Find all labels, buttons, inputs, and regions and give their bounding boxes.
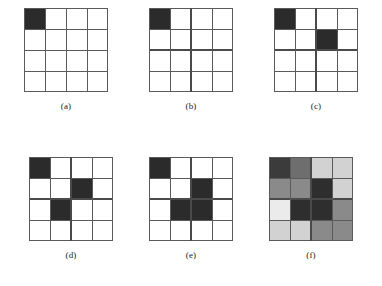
grid-cell-r2-c0[interactable]	[149, 50, 170, 71]
grid-cell-r0-c2[interactable]	[316, 8, 337, 29]
grid-cell-r0-c2[interactable]	[311, 157, 332, 178]
grid-cell-r0-c0[interactable]	[274, 8, 295, 29]
grid-cell-r1-c1[interactable]	[170, 29, 191, 50]
grid-cell-r0-c2[interactable]	[191, 157, 212, 178]
grid-cell-r1-c3[interactable]	[87, 29, 108, 50]
grid-cell-r2-c1[interactable]	[50, 199, 71, 220]
grid-cell-r1-c0[interactable]	[149, 29, 170, 50]
grid-cell-r0-c2[interactable]	[71, 157, 92, 178]
grid-cell-r3-c1[interactable]	[170, 71, 191, 92]
grid-cell-r2-c3[interactable]	[337, 50, 358, 71]
grid-cell-r0-c0[interactable]	[149, 157, 170, 178]
grid-cell-r2-c3[interactable]	[212, 199, 233, 220]
grid-cell-r3-c2[interactable]	[66, 71, 87, 92]
grid-cell-r0-c1[interactable]	[170, 157, 191, 178]
grid-cell-r0-c1[interactable]	[170, 8, 191, 29]
grid-cell-r3-c0[interactable]	[274, 71, 295, 92]
grid-cell-r2-c0[interactable]	[269, 199, 290, 220]
grid-cell-r1-c2[interactable]	[316, 29, 337, 50]
grid-cell-r2-c3[interactable]	[87, 50, 108, 71]
grid-cell-r1-c0[interactable]	[269, 178, 290, 199]
grid-cell-r3-c1[interactable]	[170, 220, 191, 241]
grid-cell-r3-c1[interactable]	[295, 71, 316, 92]
grid-cell-r0-c0[interactable]	[29, 157, 50, 178]
panel-caption-b: (b)	[185, 101, 196, 111]
grid-cell-r0-c3[interactable]	[212, 157, 233, 178]
grid-cell-r2-c2[interactable]	[316, 50, 337, 71]
grid-cell-r3-c0[interactable]	[269, 220, 290, 241]
grid-cell-r2-c0[interactable]	[29, 199, 50, 220]
grid-cell-r2-c2[interactable]	[191, 199, 212, 220]
grid-cell-r2-c2[interactable]	[191, 50, 212, 71]
grid-cell-r1-c0[interactable]	[29, 178, 50, 199]
grid-cell-r2-c0[interactable]	[149, 199, 170, 220]
grid-cell-r2-c1[interactable]	[170, 199, 191, 220]
grid-cell-r0-c1[interactable]	[295, 8, 316, 29]
grid-cell-r3-c2[interactable]	[191, 220, 212, 241]
grid-cell-r3-c1[interactable]	[45, 71, 66, 92]
grid-cell-r3-c3[interactable]	[87, 71, 108, 92]
grid-cell-r3-c0[interactable]	[149, 220, 170, 241]
grid-cell-r3-c3[interactable]	[212, 71, 233, 92]
grid-cell-r1-c3[interactable]	[212, 178, 233, 199]
panel-f: (f)	[269, 157, 353, 260]
grid-cell-r3-c3[interactable]	[332, 220, 353, 241]
grid-cell-r3-c2[interactable]	[71, 220, 92, 241]
grid-cell-r0-c2[interactable]	[66, 8, 87, 29]
grid-cell-r0-c0[interactable]	[269, 157, 290, 178]
grid-cell-r1-c2[interactable]	[191, 29, 212, 50]
grid-cell-r2-c1[interactable]	[290, 199, 311, 220]
grid-cell-r2-c0[interactable]	[274, 50, 295, 71]
grid-cells	[149, 8, 233, 92]
grid-cell-r0-c0[interactable]	[149, 8, 170, 29]
grid-cell-r1-c0[interactable]	[24, 29, 45, 50]
grid-cell-r3-c3[interactable]	[212, 220, 233, 241]
grid-cell-r0-c3[interactable]	[337, 8, 358, 29]
grid-cell-r0-c2[interactable]	[191, 8, 212, 29]
grid-cell-r1-c3[interactable]	[332, 178, 353, 199]
grid-cell-r3-c2[interactable]	[316, 71, 337, 92]
grid-cell-r1-c3[interactable]	[92, 178, 113, 199]
grid-cell-r1-c1[interactable]	[50, 178, 71, 199]
grid-cell-r1-c1[interactable]	[170, 178, 191, 199]
grid-cell-r2-c1[interactable]	[170, 50, 191, 71]
grid-cell-r1-c3[interactable]	[212, 29, 233, 50]
grid-cell-r1-c2[interactable]	[311, 178, 332, 199]
grid-cell-r3-c0[interactable]	[24, 71, 45, 92]
grid-cells	[149, 157, 233, 241]
grid-cell-r3-c2[interactable]	[311, 220, 332, 241]
grid-cell-r2-c1[interactable]	[45, 50, 66, 71]
grid-cell-r2-c2[interactable]	[71, 199, 92, 220]
grid-cell-r3-c1[interactable]	[50, 220, 71, 241]
grid-cell-r3-c0[interactable]	[29, 220, 50, 241]
grid-cell-r0-c3[interactable]	[87, 8, 108, 29]
grid-cell-r0-c3[interactable]	[332, 157, 353, 178]
grid-cell-r3-c1[interactable]	[290, 220, 311, 241]
grid-cell-r2-c3[interactable]	[92, 199, 113, 220]
grid-cell-r1-c1[interactable]	[295, 29, 316, 50]
grid-cell-r2-c3[interactable]	[332, 199, 353, 220]
grid-cell-r1-c3[interactable]	[337, 29, 358, 50]
grid-cell-r2-c3[interactable]	[212, 50, 233, 71]
grid-cell-r3-c0[interactable]	[149, 71, 170, 92]
grid-cell-r1-c0[interactable]	[274, 29, 295, 50]
grid-cell-r2-c0[interactable]	[24, 50, 45, 71]
grid-cell-r0-c3[interactable]	[212, 8, 233, 29]
grid-cell-r3-c2[interactable]	[191, 71, 212, 92]
grid-cell-r0-c0[interactable]	[24, 8, 45, 29]
grid-cell-r1-c1[interactable]	[45, 29, 66, 50]
grid-cell-r1-c2[interactable]	[71, 178, 92, 199]
grid-cell-r2-c2[interactable]	[66, 50, 87, 71]
grid-cell-r0-c3[interactable]	[92, 157, 113, 178]
grid-cell-r0-c1[interactable]	[290, 157, 311, 178]
grid-cell-r0-c1[interactable]	[45, 8, 66, 29]
grid-cell-r2-c1[interactable]	[295, 50, 316, 71]
grid-cell-r1-c1[interactable]	[290, 178, 311, 199]
grid-cell-r2-c2[interactable]	[311, 199, 332, 220]
grid-cell-r0-c1[interactable]	[50, 157, 71, 178]
grid-cell-r3-c3[interactable]	[337, 71, 358, 92]
grid-cell-r1-c2[interactable]	[66, 29, 87, 50]
grid-cell-r1-c0[interactable]	[149, 178, 170, 199]
grid-cell-r1-c2[interactable]	[191, 178, 212, 199]
grid-cell-r3-c3[interactable]	[92, 220, 113, 241]
